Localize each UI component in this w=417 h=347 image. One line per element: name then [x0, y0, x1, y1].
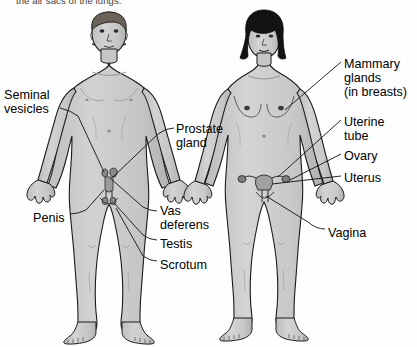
male-navel	[107, 130, 111, 133]
female-left-eye-icon	[256, 34, 261, 37]
label-mammary-glands: Mammary glands (in breasts)	[344, 57, 407, 100]
male-right-nipple	[129, 99, 132, 102]
label-testis: Testis	[160, 237, 192, 251]
female-right-foot-shape	[276, 318, 308, 341]
female-left-nipple	[244, 106, 250, 111]
label-vas-deferens: Vas deferens	[160, 204, 209, 232]
label-seminal-vesicles: Seminal vesicles	[4, 88, 50, 116]
male-right-foot-shape	[122, 322, 154, 344]
female-left-foot-shape	[220, 318, 252, 341]
label-vagina: Vagina	[328, 226, 366, 240]
male-left-eye-icon	[100, 29, 105, 32]
male-right-eye-icon	[114, 29, 119, 32]
label-uterine-tube: Uterine tube	[344, 115, 385, 143]
female-navel	[262, 135, 266, 138]
label-prostate-gland: Prostate gland	[176, 122, 223, 150]
reproductive-system-figure: the air sacs of the lungs.	[0, 0, 417, 347]
label-penis: Penis	[33, 211, 65, 225]
female-right-nipple	[278, 106, 284, 111]
label-uterus: Uterus	[344, 171, 381, 185]
male-left-nipple	[85, 99, 88, 102]
male-body-group	[27, 12, 191, 344]
label-scrotum: Scrotum	[160, 258, 207, 272]
left-ovary-shape	[238, 176, 246, 183]
right-ovary-shape	[282, 176, 290, 183]
female-right-eye-icon	[269, 34, 274, 37]
male-left-foot-shape	[64, 322, 96, 344]
female-body-group	[184, 10, 344, 341]
female-neck-shape	[257, 53, 271, 66]
male-neck-shape	[101, 49, 117, 63]
label-ovary: Ovary	[344, 149, 378, 163]
